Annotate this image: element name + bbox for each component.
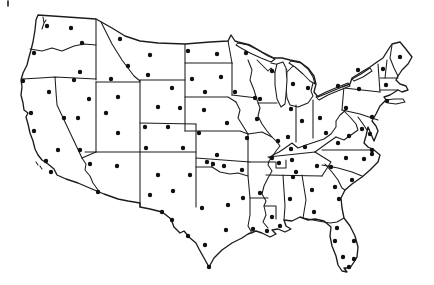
station-dot <box>181 146 185 150</box>
state-borders <box>22 17 405 233</box>
station-dot <box>226 203 230 207</box>
station-dot <box>357 87 361 91</box>
station-dot <box>72 78 76 82</box>
station-dot <box>116 95 120 99</box>
station-dot <box>200 206 204 210</box>
station-dot <box>203 243 207 247</box>
station-dot <box>116 131 120 135</box>
station-dot <box>277 161 281 165</box>
station-dot <box>245 136 249 140</box>
station-dot <box>144 146 148 150</box>
station-dot <box>219 75 223 79</box>
station-dot <box>290 158 294 162</box>
us-station-dot-map <box>0 0 434 285</box>
station-dot <box>32 129 36 133</box>
station-dot <box>115 164 119 168</box>
station-dot <box>87 97 91 101</box>
station-dot <box>356 68 360 72</box>
station-dot <box>21 79 25 83</box>
station-dot <box>207 265 211 269</box>
station-dot <box>215 52 219 56</box>
station-dot <box>109 77 113 81</box>
station-dot <box>300 119 304 123</box>
station-dot <box>312 210 316 214</box>
station-dot <box>45 24 49 28</box>
station-dot <box>270 215 274 219</box>
station-dot <box>352 239 356 243</box>
station-dot <box>203 90 207 94</box>
station-dot <box>233 90 237 94</box>
station-dot <box>104 111 108 115</box>
station-dot <box>205 160 209 164</box>
station-dot <box>291 175 295 179</box>
station-dot <box>170 218 174 222</box>
station-dot <box>156 173 160 177</box>
station-dot <box>333 185 337 189</box>
station-dot <box>62 116 66 120</box>
station-dot <box>146 73 150 77</box>
station-dot <box>329 165 333 169</box>
station-dot <box>76 116 80 120</box>
station-dot <box>56 148 60 152</box>
station-dot <box>170 86 174 90</box>
station-dot <box>381 67 385 71</box>
station-dot <box>171 189 175 193</box>
station-dot <box>291 82 295 86</box>
station-dot <box>344 156 348 160</box>
station-dot <box>384 83 388 87</box>
station-dot <box>286 135 290 139</box>
station-dot <box>32 51 36 55</box>
lake-superior <box>236 43 275 62</box>
station-dot <box>270 69 274 73</box>
station-dot <box>265 229 269 233</box>
station-dot <box>197 131 201 135</box>
station-dot <box>368 132 372 136</box>
station-dot <box>166 125 170 129</box>
station-dot <box>370 115 374 119</box>
station-dot <box>310 188 314 192</box>
station-dot <box>324 131 328 135</box>
station-dot <box>385 99 389 103</box>
station-dot <box>253 96 257 100</box>
station-dot <box>118 37 122 41</box>
station-dot <box>347 265 351 269</box>
station-dot <box>255 117 259 121</box>
station-dot <box>160 210 164 214</box>
station-dot <box>341 255 345 259</box>
station-dot <box>352 257 356 261</box>
station-dot <box>96 190 100 194</box>
station-dot <box>49 170 53 174</box>
station-dot <box>186 49 190 53</box>
station-dot <box>78 70 82 74</box>
station-dot <box>126 64 130 68</box>
station-dot <box>143 125 147 129</box>
station-dot <box>270 156 274 160</box>
us-map-svg <box>0 0 434 285</box>
station-dot <box>278 224 282 228</box>
station-dot <box>188 173 192 177</box>
station-dots-layer <box>21 24 402 269</box>
station-dot <box>347 134 351 138</box>
station-dot <box>337 197 341 201</box>
station-dot <box>80 41 84 45</box>
station-dot <box>211 162 215 166</box>
station-dot <box>240 168 244 172</box>
station-dot <box>47 90 51 94</box>
station-dot <box>190 77 194 81</box>
lake-ontario <box>352 68 372 81</box>
station-dot <box>333 239 337 243</box>
station-dot <box>294 170 298 174</box>
station-dot <box>44 159 48 163</box>
station-dot <box>186 234 190 238</box>
station-dot <box>222 164 226 168</box>
station-dot <box>244 51 248 55</box>
station-dot <box>289 147 293 151</box>
station-dot <box>258 191 262 195</box>
lake-michigan <box>275 62 287 107</box>
station-dot <box>288 197 292 201</box>
station-dot <box>225 121 229 125</box>
station-dot <box>336 84 340 88</box>
station-dot <box>241 196 245 200</box>
station-dot <box>350 178 354 182</box>
station-dot <box>370 148 374 152</box>
